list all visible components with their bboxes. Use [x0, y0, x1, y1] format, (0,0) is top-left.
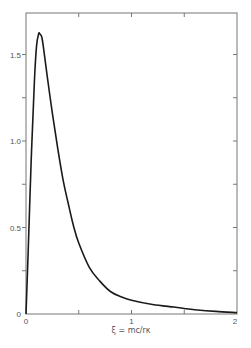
- x-tick-label: 0: [24, 317, 29, 326]
- y-tick-label: 0: [17, 310, 22, 319]
- plot-frame: [26, 13, 237, 314]
- y-tick-label: 1.5: [10, 51, 22, 60]
- y-axis-ticks: 00.51.01.5: [10, 51, 237, 319]
- x-axis-title: ξ = mc/rκ: [111, 326, 150, 335]
- data-curve: [26, 33, 237, 314]
- x-axis-ticks: 012: [24, 13, 238, 326]
- x-tick-label: 2: [233, 317, 238, 326]
- x-tick-label: 1: [129, 317, 134, 326]
- y-tick-label: 1.0: [10, 137, 22, 146]
- chart-canvas: 012 00.51.01.5 ξ = mc/rκ: [0, 0, 251, 348]
- y-tick-label: 0.5: [10, 224, 22, 233]
